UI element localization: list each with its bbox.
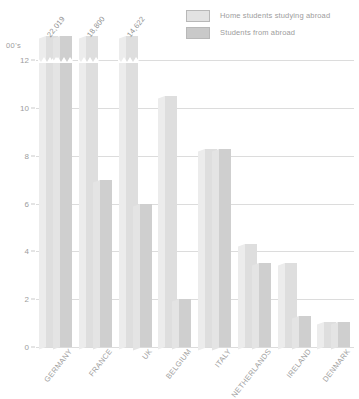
bar-side-shading [133, 204, 140, 350]
bar-face [140, 204, 152, 348]
y-tick-mark [31, 203, 35, 204]
bar-groups [36, 60, 354, 347]
bar [299, 316, 311, 347]
y-tick-label: 8 [25, 151, 29, 160]
legend-item-home-students: Home students studying abroad [186, 8, 356, 23]
legend-swatch-students-from-abroad [186, 27, 210, 39]
legend-swatch-home-students [186, 10, 210, 22]
bar-group [245, 38, 279, 347]
bar-side-shading [212, 149, 219, 350]
bar-side-shading [331, 322, 338, 350]
bar-face [219, 149, 231, 348]
bar-side-shading [172, 299, 179, 349]
x-axis-label: IRELAND [284, 347, 312, 380]
bar-face [338, 322, 350, 347]
bar [140, 204, 152, 348]
y-tick-label: 6 [25, 199, 29, 208]
chart-legend: Home students studying abroad Students f… [186, 8, 356, 42]
bar [100, 180, 112, 347]
x-axis-labels: GERMANYFRANCEUKBELGIUMITALYNETHERLANDSIR… [36, 347, 354, 393]
legend-label-home-students: Home students studying abroad [220, 11, 330, 20]
bar-side-shading [252, 263, 259, 349]
bar-group [324, 38, 358, 347]
bar-face [60, 36, 72, 347]
bar-side-shading [238, 244, 245, 349]
x-axis-label: UK [140, 347, 154, 361]
y-tick-mark [31, 347, 35, 348]
bar-side-shading [317, 322, 324, 350]
bar-side-shading [198, 149, 205, 350]
bar-side-shading [292, 316, 299, 350]
y-axis-unit-label: 00's [6, 41, 21, 50]
bar-side-shading [53, 36, 60, 350]
bar-group [46, 38, 80, 347]
bar-side-shading [79, 36, 86, 350]
y-tick-label: 2 [25, 295, 29, 304]
y-tick-label: 4 [25, 247, 29, 256]
y-tick-mark [31, 299, 35, 300]
bar-group [86, 38, 120, 347]
y-tick-label: 0 [25, 343, 29, 352]
x-axis-label: NETHERLANDS [229, 347, 273, 399]
x-axis-label: DENMARK [321, 347, 352, 384]
y-tick-label: 10 [20, 103, 29, 112]
bar-side-shading [278, 263, 285, 349]
bar-side-shading [93, 180, 100, 350]
x-axis-label: BELGIUM [164, 347, 193, 381]
axis-break-mark [52, 54, 73, 63]
bar-face [259, 263, 271, 347]
axis-break-mark [78, 54, 99, 63]
bar-side-shading [119, 36, 126, 350]
x-axis-label: GERMANY [42, 347, 74, 384]
y-tick-mark [31, 251, 35, 252]
bar-group [165, 38, 199, 347]
axis-break-mark [118, 54, 139, 63]
bar-face [179, 299, 191, 347]
bar-side-shading [158, 96, 165, 350]
bar-group [205, 38, 239, 347]
bar-side-shading [39, 36, 46, 350]
bar [219, 149, 231, 348]
bar-group [285, 38, 319, 347]
y-tick-label: 12 [20, 56, 29, 65]
y-tick-mark [31, 155, 35, 156]
legend-label-students-from-abroad: Students from abroad [220, 28, 295, 37]
x-axis-label: ITALY [213, 347, 233, 369]
bar [60, 36, 72, 347]
x-axis-label: FRANCE [87, 347, 114, 378]
bar-group [126, 38, 160, 347]
bar-face [299, 316, 311, 347]
y-tick-mark [31, 60, 35, 61]
bar-face [100, 180, 112, 347]
bar [259, 263, 271, 347]
bar [338, 322, 350, 347]
y-tick-mark [31, 107, 35, 108]
plot-area: 024681012 [36, 60, 354, 347]
bar [179, 299, 191, 347]
